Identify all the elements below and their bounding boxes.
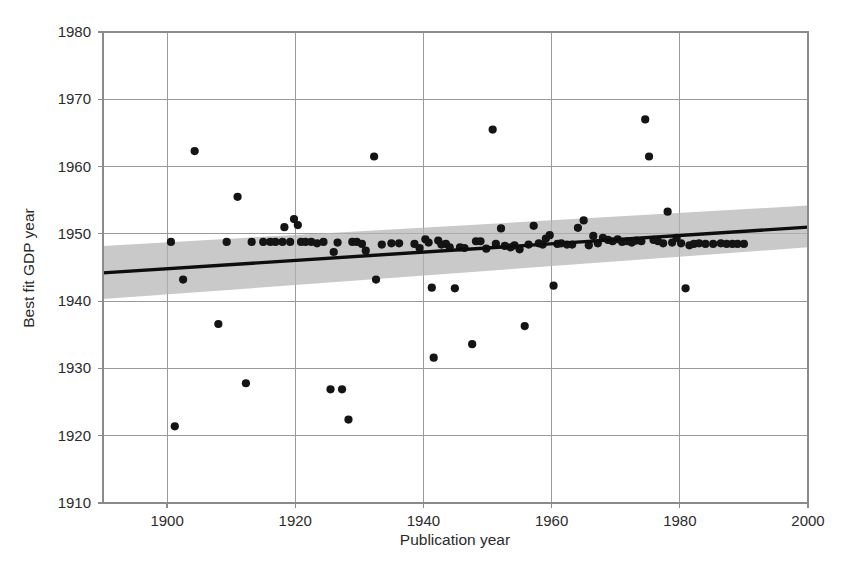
scatter-point [319,238,327,246]
y-tick-label: 1970 [58,90,91,107]
scatter-point [641,115,649,123]
scatter-point [709,240,717,248]
y-tick-label: 1940 [58,292,91,309]
x-tick-label: 2000 [791,512,824,529]
scatter-point [233,193,241,201]
scatter-point [468,340,476,348]
scatter-point [546,231,554,239]
y-tick-label: 1920 [58,427,91,444]
scatter-point [372,276,380,284]
scatter-point [664,208,672,216]
y-tick-label: 1930 [58,359,91,376]
scatter-point [521,322,529,330]
x-tick-label: 1940 [407,512,440,529]
scatter-point [659,239,667,247]
scatter-point [326,385,334,393]
scatter-point [424,239,432,247]
scatter-point [362,247,370,255]
scatter-point [497,224,505,232]
scatter-point [294,221,302,229]
scatter-point [271,238,279,246]
scatter-point [589,232,597,240]
scatter-point [451,284,459,292]
scatter-point [428,284,436,292]
y-tick-label: 1960 [58,158,91,175]
scatter-point [280,223,288,231]
x-tick-label: 1900 [150,512,183,529]
scatter-point [242,379,250,387]
y-tick-label: 1980 [58,23,91,40]
scatter-point [430,354,438,362]
scatter-point [574,224,582,232]
scatter-point [681,284,689,292]
scatter-point [378,241,386,249]
scatter-point [214,320,222,328]
x-tick-label: 1920 [279,512,312,529]
scatter-point [530,222,538,230]
scatter-point [286,238,294,246]
scatter-point [333,239,341,247]
scatter-point [248,238,256,246]
scatter-point [171,422,179,430]
x-tick-label: 1980 [663,512,696,529]
scatter-point [549,282,557,290]
scatter-point [740,240,748,248]
scatter-point [645,152,653,160]
y-tick-label: 1950 [58,225,91,242]
scatter-point [167,238,175,246]
y-axis-title: Best fit GDP year [20,208,37,327]
scatter-point [191,147,199,155]
scatter-point [395,239,403,247]
scatter-point [489,125,497,133]
scatter-point [580,216,588,224]
scatter-point [223,238,231,246]
scatter-point [387,239,395,247]
scatter-point [278,238,286,246]
y-tick-label: 1910 [58,494,91,511]
scatter-point [701,240,709,248]
scatter-point [677,239,685,247]
scatter-point [344,415,352,423]
x-tick-label: 1960 [535,512,568,529]
scatter-point [179,276,187,284]
scatter-chart-figure: 190019201940196019802000 191019201930194… [0,0,850,576]
scatter-point [370,152,378,160]
x-axis-title: Publication year [400,531,510,548]
scatter-point [330,248,338,256]
scatter-point [476,237,484,245]
scatter-point [259,238,267,246]
scatter-point [338,385,346,393]
